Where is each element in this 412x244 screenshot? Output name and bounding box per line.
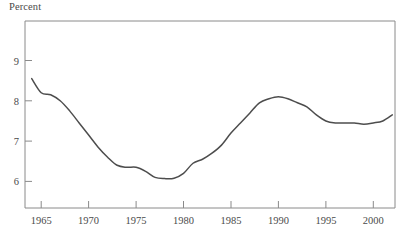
y-tick-label: 6 <box>14 176 19 187</box>
y-tick-marks <box>25 61 32 182</box>
x-tick-label: 1980 <box>173 215 194 226</box>
y-tick-label: 7 <box>14 136 19 147</box>
plot-frame <box>25 21 395 208</box>
chart-figure: Percent 9 8 7 6 <box>0 0 412 244</box>
y-tick-labels: 9 8 7 6 <box>14 56 19 188</box>
line-chart-plot: 9 8 7 6 1965 1970 1975 1980 1985 1990 19… <box>0 0 412 244</box>
x-tick-label: 1965 <box>31 215 52 226</box>
x-tick-label: 1990 <box>268 215 289 226</box>
x-tick-labels: 1965 1970 1975 1980 1985 1990 1995 2000 <box>31 215 384 226</box>
x-tick-label: 1995 <box>315 215 336 226</box>
x-tick-marks <box>41 201 373 208</box>
x-tick-label: 1985 <box>221 215 242 226</box>
x-tick-label: 2000 <box>363 215 384 226</box>
y-tick-label: 8 <box>14 96 19 107</box>
x-tick-label: 1975 <box>126 215 147 226</box>
data-series-percent <box>32 79 393 179</box>
x-tick-label: 1970 <box>78 215 99 226</box>
y-tick-label: 9 <box>14 56 19 67</box>
